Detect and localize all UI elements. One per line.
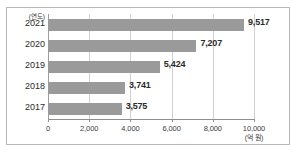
y-category-label-2017: 2017	[7, 102, 45, 112]
bar-2017[interactable]	[48, 103, 122, 115]
x-tick-label: 4,000	[121, 124, 139, 133]
bar-row: 9,517	[48, 16, 254, 37]
y-category-label-2019: 2019	[7, 60, 45, 70]
bar-2018[interactable]	[48, 82, 125, 94]
bar-2019[interactable]	[48, 61, 160, 73]
bar-2021[interactable]	[48, 19, 244, 31]
gridline-10000	[254, 14, 255, 119]
y-category-label-2018: 2018	[7, 81, 45, 91]
x-tick-label: 2,000	[80, 124, 98, 133]
bar-value-label-2021: 9,517	[248, 17, 270, 27]
y-category-label-2020: 2020	[7, 39, 45, 49]
bar-row: 3,741	[48, 79, 254, 100]
bar-value-label-2018: 3,741	[129, 80, 151, 90]
bar-value-label-2020: 7,207	[200, 38, 222, 48]
chart-frame: (연도) 02,0004,0006,0008,00010,000(억 원)9,5…	[6, 7, 290, 145]
x-tick-label: 0	[46, 124, 50, 133]
x-tick-label: 8,000	[204, 124, 222, 133]
bar-2020[interactable]	[48, 40, 196, 52]
x-axis-unit-label: (억 원)	[245, 132, 264, 142]
bar-row: 5,424	[48, 58, 254, 79]
bar-row: 7,207	[48, 37, 254, 58]
x-tick-label: 6,000	[162, 124, 180, 133]
bar-value-label-2019: 5,424	[164, 59, 186, 69]
x-tickmark-10000	[254, 119, 255, 122]
bar-value-label-2017: 3,575	[126, 101, 148, 111]
bar-row: 3,575	[48, 100, 254, 121]
y-category-label-2021: 2021	[7, 18, 45, 28]
